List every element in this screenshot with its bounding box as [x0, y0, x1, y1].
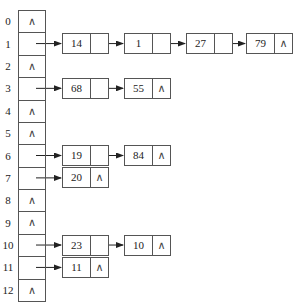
null-pointer-icon: ∧ [157, 82, 165, 95]
bucket-index: 7 [0, 167, 16, 189]
node-value: 19 [63, 146, 91, 165]
bucket-index: 2 [0, 55, 16, 77]
bucket-slot [18, 256, 46, 280]
bucket-slot: ∧ [18, 279, 46, 302]
bucket-slot: ∧ [18, 122, 46, 145]
node-value: 55 [125, 79, 153, 98]
node-pointer [91, 146, 108, 165]
node-pointer: ∧ [153, 146, 170, 165]
null-pointer-icon: ∧ [157, 239, 165, 252]
bucket-slot: ∧ [18, 189, 46, 212]
list-node: 55∧ [124, 78, 171, 99]
bucket-slot [18, 77, 46, 101]
bucket-index: 5 [0, 122, 16, 144]
node-pointer [91, 34, 108, 53]
bucket-slot: ∧ [18, 100, 46, 123]
node-value: 68 [63, 79, 91, 98]
list-node: 20∧ [62, 167, 109, 188]
node-value: 23 [63, 236, 91, 255]
node-pointer: ∧ [153, 79, 170, 98]
bucket-slot [18, 144, 46, 168]
node-pointer [91, 236, 108, 255]
list-node: 79∧ [246, 33, 293, 54]
node-value: 84 [125, 146, 153, 165]
node-value: 79 [247, 34, 275, 53]
bucket-index: 0 [0, 10, 16, 32]
list-node: 68 [62, 78, 109, 99]
bucket-index: 4 [0, 100, 16, 122]
bucket-index: 11 [0, 256, 16, 278]
node-pointer [153, 34, 170, 53]
node-value: 11 [63, 258, 91, 277]
null-pointer-icon: ∧ [28, 194, 36, 207]
node-value: 1 [125, 34, 153, 53]
list-node: 1 [124, 33, 171, 54]
bucket-index: 3 [0, 77, 16, 99]
null-pointer-icon: ∧ [95, 171, 103, 184]
list-node: 23 [62, 235, 109, 256]
bucket-slot: ∧ [18, 55, 46, 78]
node-pointer: ∧ [275, 34, 292, 53]
null-pointer-icon: ∧ [28, 60, 36, 73]
node-pointer: ∧ [153, 236, 170, 255]
bucket-index: 9 [0, 212, 16, 234]
hash-table-diagram: 0∧11412779∧2∧36855∧4∧5∧61984∧720∧8∧9∧102… [0, 0, 298, 307]
list-node: 27 [186, 33, 233, 54]
null-pointer-icon: ∧ [279, 37, 287, 50]
node-value: 14 [63, 34, 91, 53]
bucket-index: 12 [0, 279, 16, 301]
bucket-index: 6 [0, 145, 16, 167]
bucket-slot [18, 234, 46, 257]
node-pointer [91, 79, 108, 98]
list-node: 19 [62, 145, 109, 166]
list-node: 10∧ [124, 235, 171, 256]
null-pointer-icon: ∧ [28, 15, 36, 28]
null-pointer-icon: ∧ [95, 261, 103, 274]
bucket-slot [18, 32, 46, 56]
bucket-index: 8 [0, 189, 16, 211]
node-pointer [215, 34, 232, 53]
bucket-slot [18, 167, 46, 190]
null-pointer-icon: ∧ [28, 216, 36, 229]
null-pointer-icon: ∧ [157, 149, 165, 162]
list-node: 11∧ [62, 257, 109, 278]
null-pointer-icon: ∧ [28, 127, 36, 140]
node-value: 10 [125, 236, 153, 255]
bucket-slot: ∧ [18, 211, 46, 235]
bucket-index: 10 [0, 234, 16, 256]
node-pointer: ∧ [91, 168, 108, 187]
null-pointer-icon: ∧ [28, 105, 36, 118]
node-value: 27 [187, 34, 215, 53]
list-node: 84∧ [124, 145, 171, 166]
bucket-index: 1 [0, 33, 16, 55]
node-pointer: ∧ [91, 258, 108, 277]
list-node: 14 [62, 33, 109, 54]
bucket-slot: ∧ [18, 10, 46, 33]
node-value: 20 [63, 168, 91, 187]
null-pointer-icon: ∧ [28, 284, 36, 297]
